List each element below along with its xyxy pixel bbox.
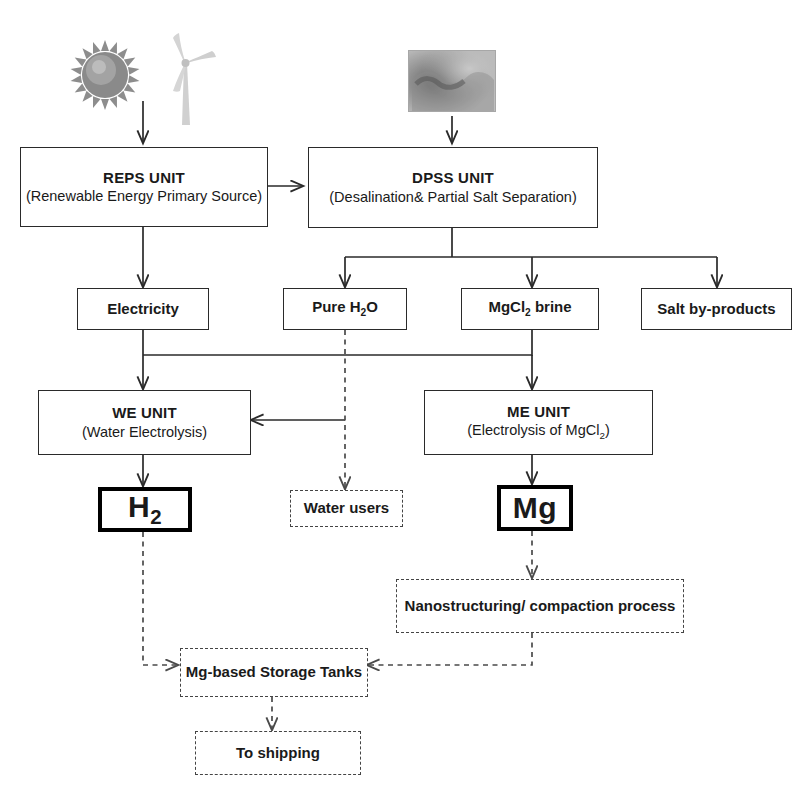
dpss-unit-title: DPSS UNIT — [412, 169, 494, 188]
electricity-box[interactable]: Electricity — [77, 288, 209, 330]
seawater-photo — [408, 50, 496, 112]
wind-turbine-icon — [155, 30, 225, 130]
dpss-unit[interactable]: DPSS UNIT (Desalination& Partial Salt Se… — [308, 147, 598, 228]
mg-storage-tanks-box[interactable]: Mg-based Storage Tanks — [180, 648, 368, 697]
pure-water-label: Pure H2O — [312, 298, 378, 320]
me-unit[interactable]: ME UNIT (Electrolysis of MgCl2) — [424, 390, 653, 455]
to-shipping-box[interactable]: To shipping — [195, 731, 361, 775]
dpss-unit-subtitle: (Desalination& Partial Salt Separation) — [329, 188, 576, 206]
me-unit-title: ME UNIT — [507, 403, 570, 422]
me-unit-subtitle: (Electrolysis of MgCl2) — [467, 421, 609, 442]
hydrogen-product-box[interactable]: H2 — [98, 487, 192, 532]
mgcl2-brine-box[interactable]: MgCl2 brine — [461, 288, 599, 330]
mg-storage-tanks-label: Mg-based Storage Tanks — [186, 663, 362, 682]
sun-icon — [68, 38, 142, 112]
reps-unit-subtitle: (Renewable Energy Primary Source) — [26, 187, 262, 205]
we-unit-title: WE UNIT — [112, 404, 177, 423]
nanostructuring-label: Nanostructuring/ compaction process — [405, 597, 676, 616]
reps-unit[interactable]: REPS UNIT (Renewable Energy Primary Sour… — [20, 147, 268, 227]
we-unit-subtitle: (Water Electrolysis) — [82, 423, 207, 441]
nanostructuring-box[interactable]: Nanostructuring/ compaction process — [396, 579, 684, 633]
to-shipping-label: To shipping — [236, 744, 320, 763]
reps-unit-title: REPS UNIT — [103, 169, 185, 188]
flowchart-canvas: REPS UNIT (Renewable Energy Primary Sour… — [0, 0, 811, 801]
salt-byproducts-label: Salt by-products — [657, 300, 775, 319]
water-users-box[interactable]: Water users — [290, 490, 403, 527]
hydrogen-label: H2 — [128, 488, 162, 531]
pure-water-box[interactable]: Pure H2O — [283, 288, 407, 330]
salt-byproducts-box[interactable]: Salt by-products — [641, 288, 792, 330]
water-users-label: Water users — [304, 499, 389, 518]
magnesium-product-box[interactable]: Mg — [497, 485, 573, 531]
electricity-label: Electricity — [107, 300, 179, 319]
magnesium-label: Mg — [513, 489, 557, 527]
we-unit[interactable]: WE UNIT (Water Electrolysis) — [38, 390, 251, 455]
mgcl2-brine-label: MgCl2 brine — [488, 298, 571, 320]
